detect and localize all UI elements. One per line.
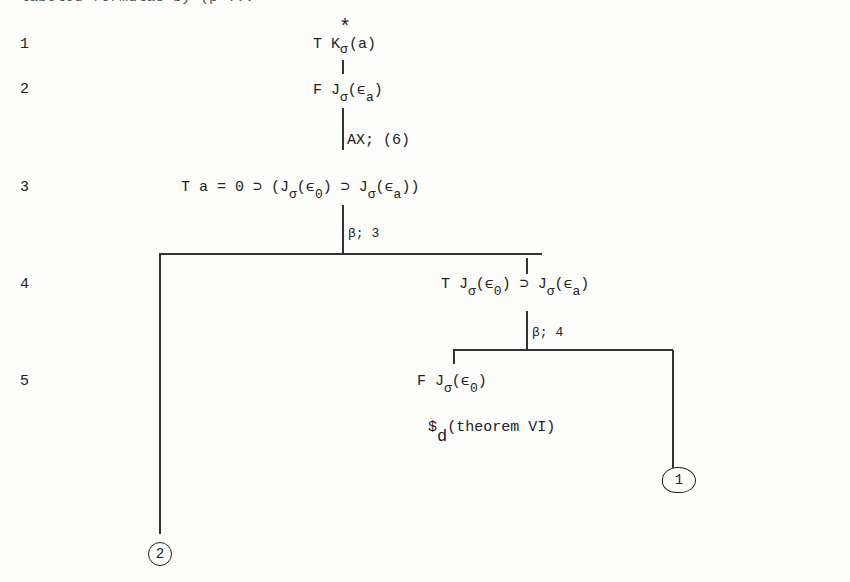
left-branch-edge (159, 254, 161, 534)
node-1-formula: T K*σ (a) (313, 36, 376, 54)
leaf-circle-1: 1 (662, 467, 696, 493)
rule-label-4: β; 4 (532, 325, 563, 340)
edge-1-2 (342, 60, 344, 74)
leaf-circle-2: 2 (148, 542, 172, 566)
line-number-1: 1 (20, 36, 29, 53)
branch-line-1 (159, 253, 542, 255)
closure-note: $d(theorem VI) (428, 418, 555, 437)
header-cut-text: labeled formulas by (p ... (20, 0, 254, 6)
right-branch-edge (526, 258, 528, 274)
line-number-3: 3 (20, 179, 29, 196)
branch-2-left-edge (453, 350, 455, 364)
line-number-4: 4 (20, 276, 29, 293)
edge-4-branch (526, 311, 528, 351)
node-4-formula: T Jσ(ϵ0) ⊃ Jσ(ϵa) (441, 276, 589, 294)
edge-3-branch (342, 205, 344, 255)
rule-label-2: AX; (6) (347, 132, 410, 150)
branch-line-2 (453, 349, 673, 351)
line-number-2: 2 (20, 81, 29, 98)
node-5-formula: F Jσ(ϵ0) (417, 373, 487, 391)
node-2-formula: F Jσ(ϵa) (313, 82, 383, 100)
line-number-5: 5 (20, 373, 29, 390)
rule-label-3: β; 3 (348, 226, 379, 241)
edge-2-3 (342, 108, 344, 150)
node-3-formula: T a = 0 ⊃ (Jσ(ϵ0) ⊃ Jσ(ϵa)) (181, 179, 419, 197)
branch-2-right-edge (672, 350, 674, 468)
